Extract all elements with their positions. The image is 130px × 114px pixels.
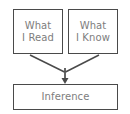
inference-diagram: What I Read What I Know Inference [0, 0, 130, 114]
connector-read-to-merge-line [30, 55, 65, 72]
node-what-i-read: What I Read [13, 9, 63, 54]
connector-know-to-merge-line [66, 55, 100, 72]
node-inference: Inference [13, 84, 118, 110]
node-inference-label: Inference [42, 91, 90, 103]
node-what-i-know-label: What I Know [76, 20, 110, 44]
node-what-i-know: What I Know [68, 9, 118, 54]
node-what-i-read-label: What I Read [22, 20, 54, 44]
